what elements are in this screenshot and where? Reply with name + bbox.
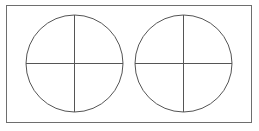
left-circle-group: [26, 15, 123, 112]
diagram-canvas: [0, 0, 259, 131]
two-circles-diagram: [0, 0, 259, 131]
right-circle-group: [135, 15, 232, 112]
